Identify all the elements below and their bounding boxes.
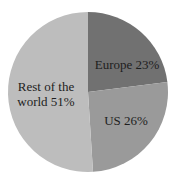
slice-label-us: US 26% xyxy=(104,113,148,128)
slice-label-europe: Europe 23% xyxy=(95,57,160,72)
pie-chart: Europe 23% US 26% Rest of the world 51% xyxy=(0,0,176,185)
slice-label-rest-of-world-line2: world 51% xyxy=(17,94,75,109)
slice-label-rest-of-world-line1: Rest of the xyxy=(18,79,75,94)
pie-slice-europe xyxy=(88,12,167,92)
